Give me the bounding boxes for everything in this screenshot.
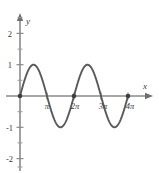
x-tick-label-4pi: 4π (126, 101, 135, 111)
y-tick-label-1: 1 (8, 60, 12, 70)
y-tick-label-neg1: -1 (6, 123, 13, 133)
sine-graph-figure: y x 2 1 -1 -2 π 2π 3π 4π (0, 0, 159, 173)
plot-area: y x 2 1 -1 -2 π 2π 3π 4π (0, 0, 159, 173)
x-tick-label-2pi: 2π (71, 101, 80, 111)
marked-point-4pi (126, 94, 131, 99)
y-tick-label-neg2: -2 (6, 154, 13, 164)
x-tick-label-3pi: 3π (98, 101, 108, 111)
marked-point-origin (18, 94, 23, 99)
x-axis-arrow-icon (145, 93, 153, 99)
marked-point-2pi (72, 94, 77, 99)
x-tick-label-pi: π (45, 101, 50, 111)
y-axis-arrow-icon (17, 13, 23, 21)
y-tick-label-2: 2 (8, 29, 12, 39)
x-axis-label: x (142, 81, 147, 91)
y-axis-label: y (25, 16, 30, 26)
